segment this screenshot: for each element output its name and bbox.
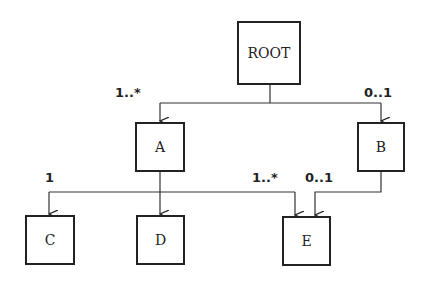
node-e: E [282, 216, 331, 266]
node-b: B [357, 122, 405, 172]
node-d: D [136, 215, 185, 265]
node-e-label: E [301, 233, 311, 249]
node-root-label: ROOT [248, 45, 291, 61]
node-c: C [25, 215, 75, 265]
multiplicity-a-e: 1..* [252, 171, 278, 184]
multiplicity-root-b: 0..1 [364, 86, 392, 99]
node-b-label: B [376, 139, 386, 155]
multiplicity-a-c: 1 [45, 171, 54, 184]
node-a-label: A [155, 139, 165, 155]
node-a: A [135, 122, 185, 172]
multiplicity-b-e: 0..1 [305, 171, 333, 184]
node-d-label: D [155, 232, 166, 248]
node-root: ROOT [237, 21, 301, 85]
node-c-label: C [45, 232, 56, 248]
multiplicity-root-a: 1..* [115, 86, 141, 99]
